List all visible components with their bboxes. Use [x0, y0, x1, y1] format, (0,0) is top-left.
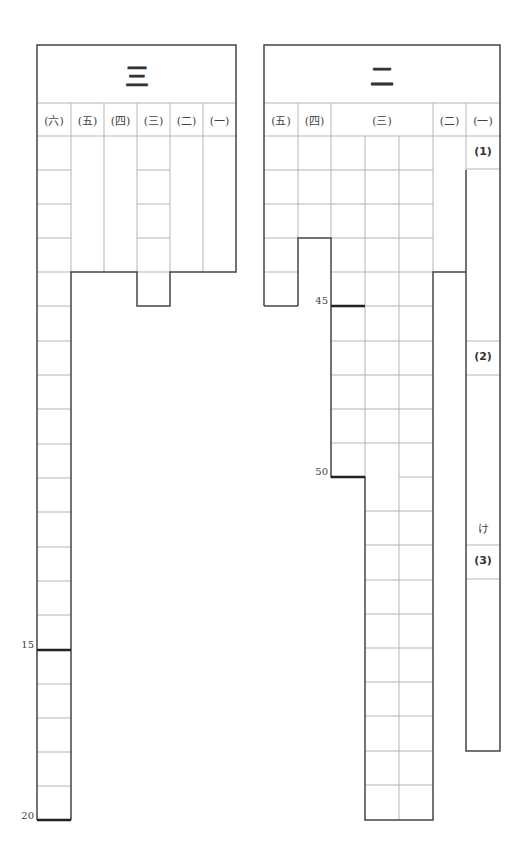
answer-area-3[interactable] — [331, 136, 433, 820]
answer-area-3[interactable] — [137, 136, 170, 306]
marker-45: 45 — [308, 295, 328, 306]
answer-area-1-3[interactable] — [466, 579, 500, 751]
ke-label: け — [466, 520, 500, 536]
col-label-2: (二) — [433, 112, 466, 128]
answer-area-5[interactable] — [71, 136, 104, 272]
marker-50: 50 — [308, 466, 328, 477]
sub-item-3-label: (3) — [466, 554, 500, 567]
col-label-4: (四) — [104, 112, 137, 128]
sub-item-1-label: (1) — [466, 145, 500, 158]
answer-area-5[interactable] — [264, 136, 298, 306]
marker-15: 15 — [14, 639, 34, 650]
marker-20: 20 — [14, 810, 34, 821]
answer-area-4[interactable] — [104, 136, 137, 272]
col-label-1: (一) — [203, 112, 236, 128]
col-label-1: (一) — [466, 112, 500, 128]
answer-area-6[interactable] — [37, 136, 71, 820]
answer-area-1[interactable] — [203, 136, 236, 272]
col-label-2: (二) — [170, 112, 203, 128]
answer-area-1-2[interactable] — [466, 375, 500, 511]
col-label-5: (五) — [71, 112, 104, 128]
answer-area-2[interactable] — [170, 136, 203, 272]
col-label-5: (五) — [264, 112, 298, 128]
answer-area-4[interactable] — [298, 136, 331, 238]
col-label-3: (三) — [137, 112, 170, 128]
col-label-6: (六) — [37, 112, 71, 128]
section-2-title: 二 — [264, 57, 500, 92]
section-3-title: 三 — [37, 57, 236, 92]
answer-area-2[interactable] — [433, 272, 466, 820]
sub-item-2-label: (2) — [466, 350, 500, 363]
col-label-3: (三) — [331, 112, 433, 128]
answer-area-1-1[interactable] — [466, 170, 500, 341]
col-label-4: (四) — [298, 112, 331, 128]
